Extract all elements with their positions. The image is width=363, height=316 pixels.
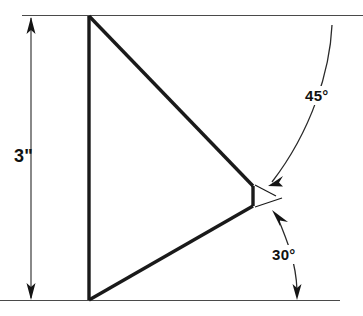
angle-45-label: 45° — [303, 86, 331, 105]
drawing-svg — [0, 0, 363, 316]
shape-upper-diagonal-edge — [89, 16, 253, 186]
height-dimension-label: 3" — [14, 146, 33, 167]
shape-lower-diagonal-edge — [89, 206, 253, 300]
angle-30-reference-tick — [255, 198, 282, 207]
angle-45-reference-tick — [255, 185, 276, 196]
angle-30-arrow-icon — [272, 210, 288, 226]
angle-30-label: 30° — [270, 245, 298, 264]
engineering-drawing-canvas: 3" 45° 30° — [0, 0, 363, 316]
